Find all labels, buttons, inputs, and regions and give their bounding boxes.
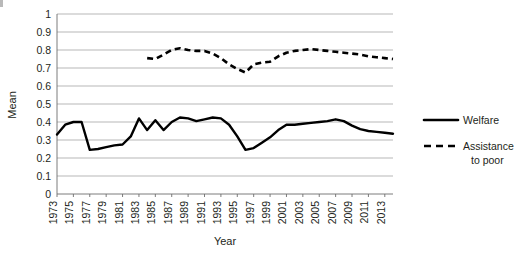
x-tick-label: 2013 xyxy=(375,201,387,225)
x-tick-label: 1975 xyxy=(63,201,75,225)
x-tick-label: 2005 xyxy=(309,201,321,225)
y-tick-label: 0.9 xyxy=(36,26,51,38)
x-tick-label: 1985 xyxy=(145,201,157,225)
x-tick-label: 1973 xyxy=(47,201,59,225)
x-tick-label: 2007 xyxy=(326,201,338,225)
x-tick-label: 1993 xyxy=(211,201,223,225)
y-axis-tick-labels: 00.10.20.30.40.50.60.70.80.91 xyxy=(36,8,51,200)
x-tick-label: 2011 xyxy=(358,201,370,224)
legend-label-welfare: Welfare xyxy=(463,114,499,126)
x-tick-label: 1989 xyxy=(178,201,190,225)
chart-background xyxy=(0,0,514,253)
x-tick-label: 1991 xyxy=(195,201,207,225)
legend-label-assistance-to-poor-line2: to poor xyxy=(471,154,504,166)
x-tick-label: 2009 xyxy=(342,201,354,225)
x-tick-label: 1987 xyxy=(162,201,174,225)
y-axis-title: Mean xyxy=(6,91,18,119)
legend-label-assistance-to-poor: Assistance xyxy=(463,140,514,152)
y-tick-label: 0.6 xyxy=(36,80,51,92)
y-tick-label: 0.4 xyxy=(36,116,51,128)
y-tick-label: 0.1 xyxy=(36,170,51,182)
page-corner-mark xyxy=(0,0,3,7)
x-tick-label: 1995 xyxy=(227,201,239,225)
y-tick-label: 1 xyxy=(45,8,51,20)
x-tick-label: 1977 xyxy=(80,201,92,225)
x-tick-label: 1997 xyxy=(244,201,256,225)
x-tick-label: 1999 xyxy=(260,201,272,225)
y-tick-label: 0.8 xyxy=(36,44,51,56)
y-tick-label: 0 xyxy=(45,188,51,200)
x-axis-tick-labels: 1973197519771979198119831985198719891991… xyxy=(47,201,387,225)
x-tick-label: 2001 xyxy=(276,201,288,225)
x-tick-label: 1983 xyxy=(129,201,141,225)
line-chart-figure: 00.10.20.30.40.50.60.70.80.91 1973197519… xyxy=(0,0,514,253)
x-tick-label: 1979 xyxy=(96,201,108,225)
y-tick-label: 0.3 xyxy=(36,134,51,146)
y-tick-label: 0.7 xyxy=(36,62,51,74)
y-tick-label: 0.5 xyxy=(36,98,51,110)
y-tick-label: 0.2 xyxy=(36,152,51,164)
x-tick-label: 1981 xyxy=(113,201,125,225)
x-tick-label: 2003 xyxy=(293,201,305,225)
x-axis-tick-marks xyxy=(57,194,385,197)
x-axis-title: Year xyxy=(214,235,237,247)
